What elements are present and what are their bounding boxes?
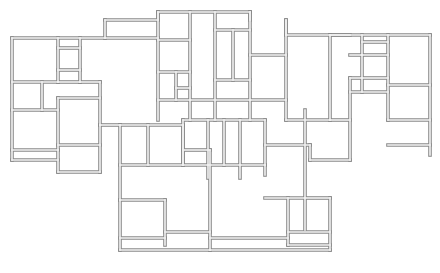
- floor-plan-drawing: [0, 0, 440, 273]
- walls-inner-fill: [12, 12, 430, 250]
